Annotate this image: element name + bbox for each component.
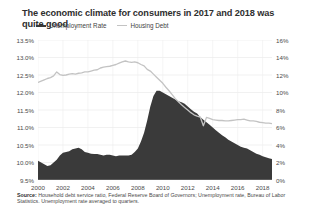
- chart-root: The economic climate for consumers in 20…: [0, 0, 310, 219]
- x-tick-3: 2006: [102, 184, 124, 191]
- y-tick-left-7: 13.0%: [0, 54, 34, 61]
- x-tick-5: 2010: [152, 184, 174, 191]
- x-tick-9: 2018: [252, 184, 274, 191]
- plot-area: [38, 40, 272, 180]
- y-tick-left-5: 12.0%: [0, 89, 34, 96]
- legend-item-housing-debt: Housing Debt: [117, 22, 168, 29]
- y-tick-left-4: 11.5%: [0, 107, 34, 114]
- x-tick-7: 2014: [202, 184, 224, 191]
- source-text: Household debt service ratio, Federal Re…: [17, 192, 285, 204]
- chart-legend: Unemployment Rate Housing Debt: [36, 22, 169, 29]
- y-tick-left-6: 12.5%: [0, 72, 34, 79]
- y-tick-right-7: 14%: [276, 54, 288, 61]
- legend-label-housing-debt: Housing Debt: [130, 22, 168, 29]
- chart-svg: [38, 40, 272, 180]
- legend-swatch-housing-debt-icon: [117, 25, 127, 27]
- y-tick-right-0: 0%: [276, 177, 285, 184]
- y-tick-right-5: 10%: [276, 89, 288, 96]
- x-tick-6: 2012: [177, 184, 199, 191]
- series-area-unemployment-rate: [38, 91, 272, 180]
- y-tick-right-2: 4%: [276, 142, 285, 149]
- y-tick-left-1: 10.0%: [0, 159, 34, 166]
- y-tick-right-4: 8%: [276, 107, 285, 114]
- x-tick-1: 2002: [52, 184, 74, 191]
- y-tick-left-0: 9.5%: [0, 177, 34, 184]
- legend-item-unemployment-rate: Unemployment Rate: [36, 22, 106, 29]
- y-tick-right-3: 6%: [276, 124, 285, 131]
- y-tick-right-6: 12%: [276, 72, 288, 79]
- legend-label-unemployment-rate: Unemployment Rate: [49, 22, 106, 29]
- y-tick-left-8: 13.5%: [0, 37, 34, 44]
- chart-source: Source: Household debt service ratio, Fe…: [17, 192, 301, 205]
- source-prefix: Source:: [17, 192, 37, 198]
- legend-swatch-unemployment-icon: [36, 25, 46, 27]
- y-tick-left-3: 11.0%: [0, 124, 34, 131]
- y-tick-right-1: 2%: [276, 159, 285, 166]
- x-tick-8: 2016: [227, 184, 249, 191]
- x-tick-2: 2004: [77, 184, 99, 191]
- y-tick-left-2: 10.5%: [0, 142, 34, 149]
- x-tick-0: 2000: [27, 184, 49, 191]
- x-tick-4: 2008: [127, 184, 149, 191]
- y-tick-right-8: 16%: [276, 37, 288, 44]
